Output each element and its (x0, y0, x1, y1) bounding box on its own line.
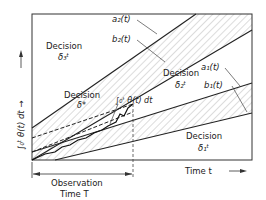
a2-leader (137, 20, 157, 34)
decision-regions-diagram: Decision δ₃ᵗ Decision δ₂ᵗ Decision δ₁ᵗ D… (0, 0, 266, 200)
a1-leader (225, 68, 240, 86)
curve-label-integral: ∫₀ᵗ θ(t) dt (115, 96, 153, 105)
region-d3-word: Decision (46, 41, 82, 51)
region-d3-symbol: δ₃ᵗ (58, 52, 70, 62)
observation-label-line1: Observation (51, 178, 103, 188)
curve-label-a2: a₂(t) (112, 14, 131, 24)
arrow-right-icon (125, 172, 132, 176)
curve-label-a1: a₁(t) (201, 62, 220, 72)
curve-label-b2: b₂(t) (112, 34, 131, 44)
y-axis-label: ∫₀ᵗ θ(t) dt → (16, 101, 26, 150)
arrow-up-icon (19, 50, 23, 57)
arrow-left-icon (33, 172, 40, 176)
arrow-right-icon (240, 169, 247, 173)
region-d1-symbol: δ₁ᵗ (198, 143, 210, 153)
curve-label-b1: b₁(t) (204, 80, 223, 90)
region-d1-word: Decision (186, 131, 222, 141)
region-d2-symbol: δ₂ᵗ (175, 80, 187, 90)
x-axis-label: Time t (184, 166, 213, 176)
region-d2-word: Decision (163, 68, 199, 78)
observation-label-line2: Time T (59, 189, 90, 199)
region-dstar-word: Decision (64, 90, 100, 100)
region-dstar-symbol: δ* (77, 101, 86, 110)
